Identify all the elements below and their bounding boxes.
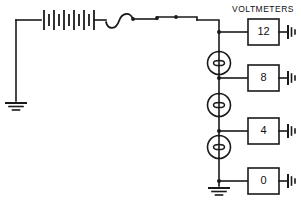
- generator-2: [208, 94, 231, 117]
- ground-meter-12: [279, 26, 295, 38]
- wire-step: [157, 17, 176, 19]
- ground-meter-4: [279, 125, 295, 137]
- junction-dot-tap-4: [217, 129, 221, 133]
- battery: [44, 11, 94, 29]
- ground-meter-0: [279, 175, 295, 187]
- ground-bottom: [209, 188, 229, 195]
- junction-dot-step-right: [174, 15, 178, 19]
- junction-dot-step-left: [155, 16, 159, 20]
- wire-to-bus-corner: [176, 17, 197, 20]
- junction-dot-loop-end: [131, 17, 135, 21]
- wire-loop: [106, 14, 133, 28]
- circuit-diagram-canvas: VOLTMETERS 12 8 4 0: [0, 0, 301, 209]
- ground-meter-8: [279, 72, 295, 84]
- ground-left: [6, 103, 26, 110]
- meter-value-0: 0: [260, 174, 266, 186]
- generator-1: [208, 52, 231, 75]
- wire-corner-to-bus: [197, 20, 219, 32]
- junction-dot-tap-12: [217, 30, 221, 34]
- meter-value-12: 12: [257, 25, 269, 37]
- meter-value-8: 8: [260, 71, 266, 83]
- junction-dot-tap-8: [217, 76, 221, 80]
- generator-3: [208, 136, 231, 159]
- meter-value-4: 4: [260, 124, 266, 136]
- junction-dot-tap-0: [217, 179, 221, 183]
- schematic-svg: VOLTMETERS 12 8 4 0: [0, 0, 301, 209]
- voltmeters-title: VOLTMETERS: [232, 4, 294, 14]
